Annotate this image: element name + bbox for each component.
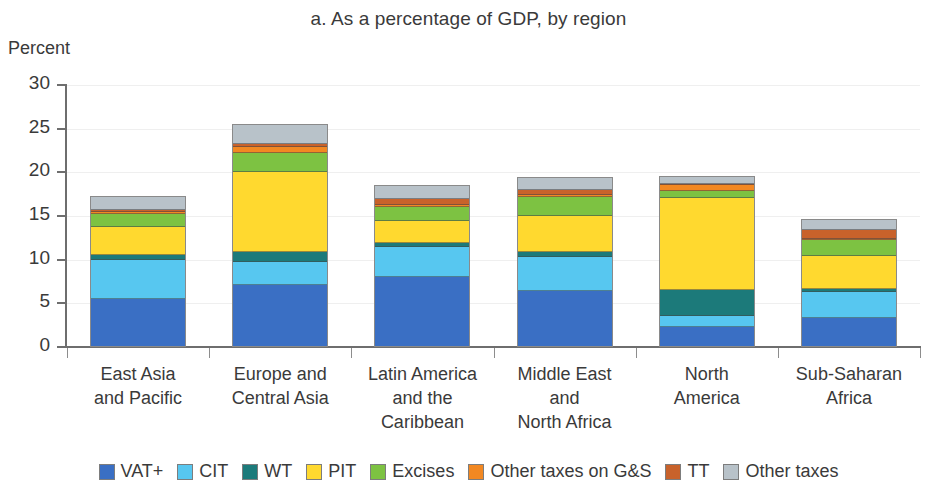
legend-swatch-icon [665, 464, 681, 480]
legend-swatch-icon [468, 464, 484, 480]
bar-segment[interactable] [375, 221, 469, 243]
bar-segment[interactable] [660, 177, 754, 184]
bar-segment[interactable] [375, 207, 469, 221]
y-axis-tick-label: 0 [6, 334, 50, 356]
bar-segment[interactable] [660, 198, 754, 290]
legend-item-label: WT [264, 461, 292, 482]
bar-segment[interactable] [233, 285, 327, 346]
bar-segment[interactable] [518, 178, 612, 190]
bar-segment[interactable] [91, 299, 185, 346]
bar-segment[interactable] [375, 277, 469, 346]
chart-figure: a. As a percentage of GDP, by region Per… [0, 0, 937, 494]
bar-segment[interactable] [91, 214, 185, 227]
gridline [67, 260, 920, 261]
x-axis-category-label: Middle EastandNorth Africa [494, 362, 636, 434]
x-axis-category-line: Africa [778, 386, 920, 410]
gridline [67, 129, 920, 130]
bar-segment[interactable] [660, 290, 754, 316]
legend-swatch-icon [370, 464, 386, 480]
x-axis-category-line: North Africa [494, 410, 636, 434]
y-axis-tick-label: 25 [6, 116, 50, 138]
bar-segment[interactable] [518, 291, 612, 346]
x-axis-category-line: East Asia [67, 362, 209, 386]
legend-item-label: Other taxes [745, 461, 838, 482]
x-axis-category-label: East Asiaand Pacific [67, 362, 209, 410]
x-axis-separator [636, 348, 637, 358]
legend-item-label: Other taxes on G&S [490, 461, 651, 482]
x-axis-category-line: Sub-Saharan [778, 362, 920, 386]
bar-segment[interactable] [233, 172, 327, 252]
x-axis-category-label: Sub-SaharanAfrica [778, 362, 920, 410]
stacked-bar[interactable] [659, 176, 755, 347]
legend-item[interactable]: WT [242, 461, 292, 482]
stacked-bar[interactable] [232, 124, 328, 347]
legend-item[interactable]: VAT+ [99, 461, 164, 482]
x-axis-category-line: North [636, 362, 778, 386]
y-axis-tick-label: 15 [6, 203, 50, 225]
bar-segment[interactable] [233, 153, 327, 172]
y-axis-line [65, 84, 67, 348]
bar-segment[interactable] [660, 316, 754, 327]
x-axis-separator [209, 348, 210, 358]
y-axis-label: Percent [8, 38, 70, 59]
legend-item-label: VAT+ [121, 461, 164, 482]
legend-item[interactable]: PIT [306, 461, 356, 482]
x-axis-separator [67, 348, 68, 358]
x-axis-separator [494, 348, 495, 358]
bar-segment[interactable] [91, 197, 185, 210]
bar-segment[interactable] [518, 257, 612, 291]
bar-segment[interactable] [233, 262, 327, 285]
x-axis-category-line: and the [351, 386, 493, 410]
chart-legend: VAT+CITWTPITExcisesOther taxes on G&STTO… [0, 461, 937, 482]
y-axis-tick-label: 30 [6, 72, 50, 94]
stacked-bar[interactable] [517, 177, 613, 347]
bar-segment[interactable] [375, 247, 469, 277]
legend-swatch-icon [242, 464, 258, 480]
gridline [67, 216, 920, 217]
bar-segment[interactable] [802, 220, 896, 229]
bar-segment[interactable] [233, 252, 327, 262]
legend-item[interactable]: CIT [177, 461, 228, 482]
bar-segment[interactable] [233, 125, 327, 144]
legend-item[interactable]: Other taxes on G&S [468, 461, 651, 482]
gridline [67, 85, 920, 86]
legend-swatch-icon [177, 464, 193, 480]
bar-segment[interactable] [802, 318, 896, 346]
chart-title: a. As a percentage of GDP, by region [0, 8, 937, 30]
x-axis-category-line: Latin America [351, 362, 493, 386]
bar-segment[interactable] [660, 327, 754, 346]
x-axis-category-line: and Pacific [67, 386, 209, 410]
bar-segment[interactable] [802, 256, 896, 290]
y-axis-tick-label: 10 [6, 247, 50, 269]
x-axis-separator [920, 348, 921, 358]
x-axis-category-line: Europe and [209, 362, 351, 386]
legend-item[interactable]: Other taxes [723, 461, 838, 482]
bar-segment[interactable] [802, 240, 896, 255]
bar-segment[interactable] [375, 186, 469, 198]
bar-segment[interactable] [802, 292, 896, 318]
legend-item[interactable]: Excises [370, 461, 454, 482]
legend-item-label: Excises [392, 461, 454, 482]
gridline [67, 172, 920, 173]
stacked-bar[interactable] [90, 196, 186, 347]
stacked-bar[interactable] [801, 219, 897, 347]
legend-swatch-icon [723, 464, 739, 480]
legend-item-label: PIT [328, 461, 356, 482]
x-axis-category-line: Middle East [494, 362, 636, 386]
x-axis-category-label: NorthAmerica [636, 362, 778, 410]
bar-segment[interactable] [518, 216, 612, 252]
x-axis-category-line: America [636, 386, 778, 410]
x-axis-category-line: Central Asia [209, 386, 351, 410]
bar-segment[interactable] [802, 230, 896, 239]
legend-item-label: CIT [199, 461, 228, 482]
legend-item[interactable]: TT [665, 461, 709, 482]
bar-segment[interactable] [91, 227, 185, 255]
stacked-bar[interactable] [374, 185, 470, 347]
x-axis-category-label: Latin Americaand theCaribbean [351, 362, 493, 434]
x-axis-category-line: Caribbean [351, 410, 493, 434]
y-axis-tick-label: 20 [6, 159, 50, 181]
gridline [67, 303, 920, 304]
y-axis-tick-label: 5 [6, 290, 50, 312]
bar-segment[interactable] [518, 197, 612, 216]
bar-segment[interactable] [91, 260, 185, 300]
